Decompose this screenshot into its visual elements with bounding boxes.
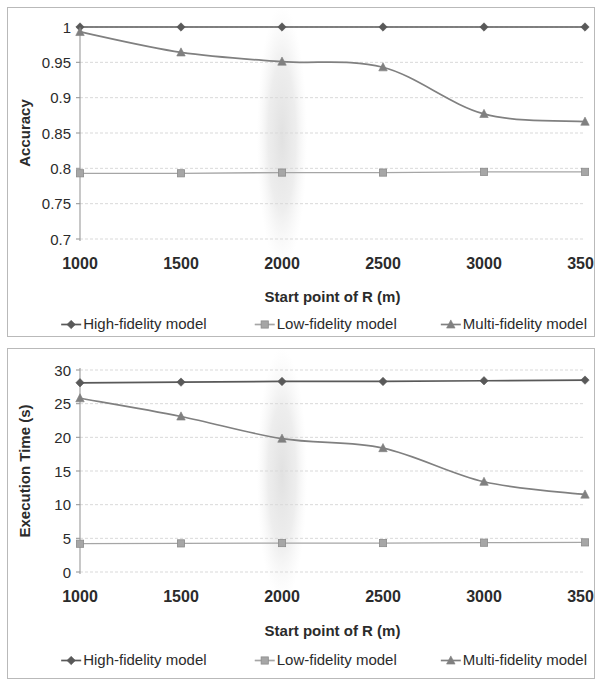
data-point-marker [581,539,588,546]
x-axis-tick-label: 2000 [264,588,300,605]
legend-label: High-fidelity model [83,651,206,668]
data-point-marker [278,539,285,546]
data-point-marker [177,23,185,31]
data-point-marker [379,377,387,385]
plot-wrapper-execution-time: 051015202530100015002000250030003500Star… [8,349,594,678]
legend-item-high-fidelity[interactable]: High-fidelity model [61,651,206,668]
data-point-marker [76,170,83,177]
data-point-marker [177,170,184,177]
y-axis-tick-label: 0.85 [42,125,71,142]
x-axis-tick-label: 3000 [466,255,502,272]
y-axis-tick-label: 25 [54,395,71,412]
execution-time-chart-svg: 051015202530100015002000250030003500Star… [8,349,594,678]
x-axis-title: Start point of R (m) [265,288,401,305]
data-point-marker [379,539,386,546]
series-low-fidelity [76,168,588,177]
x-axis-tick-label: 1500 [163,588,199,605]
data-point-marker [177,378,185,386]
series-line [80,32,585,122]
data-point-marker [379,23,387,31]
data-point-marker [278,169,285,176]
x-axis-tick-label: 3500 [567,588,594,605]
highlight-band [257,8,308,269]
legend-label: Low-fidelity model [277,651,397,668]
series-multi-fidelity [76,394,589,498]
legend-marker-icon [67,320,75,328]
legend-item-high-fidelity[interactable]: High-fidelity model [61,315,206,332]
legend-item-low-fidelity[interactable]: Low-fidelity model [255,315,397,332]
legend-label: High-fidelity model [83,315,206,332]
x-axis-tick-label: 2500 [365,588,401,605]
y-axis-tick-label: 0.9 [50,89,71,106]
figure-root: 0.70.750.80.850.90.951100015002000250030… [0,0,602,686]
series-line [80,380,585,383]
chart-panel-execution-time: 051015202530100015002000250030003500Star… [7,348,595,679]
series-line [80,542,585,543]
data-point-marker [480,23,488,31]
data-point-marker [581,376,589,384]
y-axis-tick-label: 0.75 [42,195,71,212]
series-line [80,398,585,494]
legend-item-multi-fidelity[interactable]: Multi-fidelity model [441,315,587,332]
data-point-marker [76,394,84,402]
y-axis-tick-label: 10 [54,496,71,513]
y-axis-tick-label: 0.8 [50,160,71,177]
y-axis-tick-label: 0.7 [50,231,71,248]
x-axis-tick-label: 2500 [365,255,401,272]
legend-marker-icon [67,656,75,664]
data-point-marker [581,23,589,31]
series-line [80,172,585,173]
y-axis-tick-label: 0.95 [42,54,71,71]
legend-item-multi-fidelity[interactable]: Multi-fidelity model [441,651,587,668]
y-axis-tick-label: 1 [63,19,71,36]
data-point-marker [76,540,83,547]
plot-wrapper-accuracy: 0.70.750.80.850.90.951100015002000250030… [8,8,594,336]
legend-label: Low-fidelity model [277,315,397,332]
y-axis-title: Accuracy [16,99,33,167]
data-point-marker [480,539,487,546]
y-axis-tick-label: 30 [54,362,71,379]
y-axis-tick-label: 20 [54,429,71,446]
legend-label: Multi-fidelity model [463,315,587,332]
x-axis-title: Start point of R (m) [265,622,401,639]
highlight-band [257,349,308,602]
data-point-marker [177,540,184,547]
legend-marker-icon [261,321,268,328]
data-point-marker [76,379,84,387]
x-axis-tick-label: 1000 [62,255,98,272]
series-high-fidelity [76,376,589,387]
series-multi-fidelity [76,27,589,125]
x-axis-tick-label: 1000 [62,588,98,605]
x-axis-tick-label: 3000 [466,588,502,605]
chart-panel-accuracy: 0.70.750.80.850.90.951100015002000250030… [7,7,595,337]
data-point-marker [480,377,488,385]
y-axis-title: Execution Time (s) [16,404,33,537]
x-axis-tick-label: 3500 [567,255,594,272]
x-axis-tick-label: 1500 [163,255,199,272]
y-axis-tick-label: 0 [63,564,71,581]
x-axis-tick-label: 2000 [264,255,300,272]
legend-marker-icon [261,657,268,664]
y-axis-tick-label: 5 [63,530,71,547]
data-point-marker [379,169,386,176]
legend-item-low-fidelity[interactable]: Low-fidelity model [255,651,397,668]
legend-label: Multi-fidelity model [463,651,587,668]
accuracy-chart-svg: 0.70.750.80.850.90.951100015002000250030… [8,8,594,336]
data-point-marker [581,168,588,175]
series-low-fidelity [76,539,588,548]
data-point-marker [480,168,487,175]
series-high-fidelity [76,23,589,31]
y-axis-tick-label: 15 [54,463,71,480]
